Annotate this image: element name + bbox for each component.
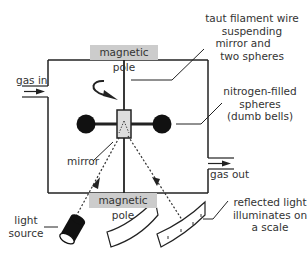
light-source-icon xyxy=(58,212,87,246)
filament-label-line4: two spheres xyxy=(192,50,307,63)
scale-label-line1: reflected light xyxy=(228,196,307,209)
scale-label: reflected light illuminates on a scale xyxy=(228,196,307,234)
gas-out-arrow-icon xyxy=(208,161,231,167)
magnetic-pole-top: magnetic pole xyxy=(90,45,158,60)
gas-in-label: gas in xyxy=(16,74,47,87)
gas-in-arrow-icon xyxy=(24,89,45,95)
scale-label-line2: illuminates on xyxy=(228,209,307,222)
scale-label-line3: a scale xyxy=(228,221,307,234)
light-source-label: light source xyxy=(8,214,44,239)
filament-label-line1: taut filament wire xyxy=(192,12,307,25)
spheres-label-line2: spheres xyxy=(210,98,307,111)
filament-label-line3: mirror and xyxy=(174,37,307,50)
spheres-label-line1: nitrogen-filled xyxy=(210,85,307,98)
mirror xyxy=(117,110,131,138)
gas-out-label: gas out xyxy=(210,168,249,181)
spheres-label: nitrogen-filled spheres (dumb bells) xyxy=(210,85,307,123)
sphere-right xyxy=(153,115,172,134)
sphere-left xyxy=(77,115,96,134)
rotation-arrow-icon xyxy=(93,81,118,100)
filament-label: taut filament wire suspending mirror and… xyxy=(192,12,307,62)
scale-strip xyxy=(157,202,205,247)
filament-label-line2: suspending xyxy=(192,25,307,38)
light-source-label-line2: source xyxy=(8,227,44,240)
light-source-label-line1: light xyxy=(8,214,44,227)
magnetic-pole-bottom: magnetic pole xyxy=(89,193,157,208)
spheres-label-line3: (dumb bells) xyxy=(210,110,307,123)
mirror-label: mirror xyxy=(67,155,99,168)
